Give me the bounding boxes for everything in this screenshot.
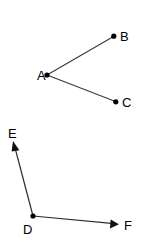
point-f-label: F xyxy=(124,218,132,233)
geometry-canvas: A B C E D F xyxy=(0,0,156,242)
point-c-label: C xyxy=(122,95,131,110)
point-b-label: B xyxy=(120,29,129,44)
geometry-figure: A B C E D F xyxy=(0,0,156,242)
point-d-label: D xyxy=(23,222,32,237)
point-b-dot xyxy=(111,34,116,39)
point-e-label: E xyxy=(8,126,17,141)
point-a-label: A xyxy=(37,68,46,83)
point-c-dot xyxy=(113,99,118,104)
figure-background xyxy=(0,0,156,242)
point-d-dot xyxy=(30,213,35,218)
